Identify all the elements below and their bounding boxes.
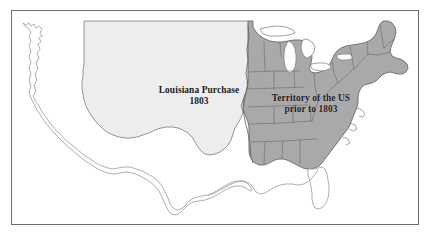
great-lake-ontario: [337, 54, 353, 60]
great-lake-erie: [311, 63, 331, 71]
region-florida-peninsula: [308, 167, 329, 209]
us-territory-map: [12, 11, 418, 224]
region-louisiana-purchase: [82, 21, 256, 155]
great-lake-superior: [260, 26, 295, 36]
historical-map-figure: Louisiana Purchase 1803 Territory of the…: [0, 0, 435, 239]
map-frame: Louisiana Purchase 1803 Territory of the…: [11, 10, 419, 225]
map-layers: [23, 21, 408, 215]
coastline-gulf: [208, 169, 318, 195]
